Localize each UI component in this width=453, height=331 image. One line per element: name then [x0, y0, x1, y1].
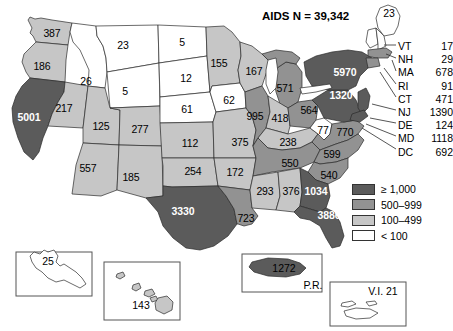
ne-list-value: 1390	[430, 106, 453, 119]
ne-list-value: 692	[435, 146, 453, 159]
inset-name-puerto-rico: P.R.	[303, 279, 322, 291]
ne-list-row-nj: NJ1390	[398, 106, 453, 119]
ne-list-row-md: MD1118	[398, 132, 453, 145]
legend-row-1[interactable]: ≥ 1,000	[352, 182, 422, 196]
ne-list-value: 17	[441, 40, 453, 53]
leader-line-md	[366, 124, 396, 136]
inset-name-virgin-islands: V.I. 21	[368, 285, 397, 297]
state-value-al: 376	[282, 185, 299, 197]
legend-swatch-4	[352, 230, 375, 241]
state-value-ga: 1034	[305, 185, 328, 197]
ne-list-abbr: NJ	[398, 106, 411, 119]
state-value-oh: 564	[300, 104, 317, 116]
map-figure: AIDS N = 39,342 387186500121726235125557…	[0, 0, 453, 331]
ne-list-value: 29	[441, 53, 453, 66]
legend-label-1: ≥ 1,000	[381, 183, 416, 195]
legend-swatch-3	[352, 215, 375, 226]
leader-line-ct	[380, 72, 396, 97]
state-value-in: 418	[271, 112, 288, 124]
leader-line-ma	[392, 60, 396, 71]
inset-value-alaska: 25	[42, 255, 54, 267]
state-value-pa: 1320	[330, 89, 353, 101]
ne-list-abbr: VT	[398, 40, 411, 53]
state-value-wa: 387	[43, 27, 60, 39]
ne-list-row-vt: VT17	[398, 40, 453, 53]
state-value-co: 277	[131, 123, 148, 135]
ne-list-value: 471	[435, 93, 453, 106]
ne-list-abbr: RI	[398, 80, 409, 93]
state-value-mo: 375	[231, 136, 248, 148]
ne-list-row-ri: RI91	[398, 80, 453, 93]
ne-list-abbr: NH	[398, 53, 413, 66]
ne-list-abbr: CT	[398, 93, 412, 106]
legend-swatch-1	[352, 184, 375, 195]
ne-list-value: 1118	[431, 132, 453, 145]
state-value-mn: 155	[210, 57, 227, 69]
leader-line-dc	[362, 128, 396, 149]
leader-line-de	[370, 118, 396, 123]
state-value-la: 723	[237, 212, 254, 224]
state-shape-CT[interactable]	[366, 58, 380, 68]
state-value-ne: 61	[181, 103, 192, 115]
state-value-tx: 3330	[172, 205, 195, 217]
ne-list-abbr: DE	[398, 119, 413, 132]
state-value-wv: 77	[317, 124, 328, 136]
state-value-id: 26	[80, 75, 91, 87]
inset-value-hawaii: 143	[132, 299, 150, 311]
state-value-il: 995	[246, 110, 263, 122]
state-value-or: 186	[33, 60, 50, 72]
ne-list-row-ma: MA678	[398, 66, 453, 79]
state-value-fl: 3886	[318, 209, 341, 221]
state-value-ia: 62	[223, 94, 234, 106]
ne-list-row-ct: CT471	[398, 93, 453, 106]
northeast-state-list: VT17NH29MA678RI91CT471NJ1390DE124MD1118D…	[398, 40, 453, 159]
ne-list-row-nh: NH29	[398, 53, 453, 66]
state-value-az: 557	[79, 162, 96, 174]
state-value-wy: 5	[122, 85, 128, 97]
legend-label-2: 500–999	[381, 199, 422, 211]
state-value-wi: 167	[245, 65, 262, 77]
legend-label-4: < 100	[381, 230, 408, 242]
state-value-tn: 550	[281, 157, 298, 169]
state-value-va: 770	[336, 126, 353, 138]
state-value-ny: 5970	[334, 66, 357, 78]
legend-swatch-2	[352, 199, 375, 210]
state-value-ut: 125	[92, 120, 109, 132]
inset-value-puerto-rico: 1272	[272, 262, 295, 274]
legend-label-3: 100–499	[381, 214, 422, 226]
state-value-nv: 217	[55, 102, 72, 114]
map-title: AIDS N = 39,342	[262, 10, 349, 22]
state-value-ar: 172	[226, 166, 243, 178]
ne-list-abbr: MD	[398, 132, 414, 145]
state-value-me: 23	[383, 7, 394, 19]
ne-list-row-dc: DC692	[398, 146, 453, 159]
state-shape-MA[interactable]	[368, 48, 392, 58]
legend-row-2[interactable]: 500–999	[352, 198, 422, 212]
ne-list-abbr: MA	[398, 66, 414, 79]
state-value-nd: 5	[179, 36, 185, 48]
legend-row-3[interactable]: 100–499	[352, 213, 422, 227]
ne-list-value: 124	[435, 119, 453, 132]
state-value-ca: 5001	[18, 111, 41, 123]
state-value-ms: 293	[256, 185, 273, 197]
state-value-nm: 185	[122, 171, 139, 183]
ne-list-value: 91	[441, 80, 453, 93]
ne-list-row-de: DE124	[398, 119, 453, 132]
state-value-nc: 599	[323, 148, 340, 160]
state-value-ks: 112	[182, 137, 198, 149]
state-value-ok: 254	[184, 165, 201, 177]
ne-list-abbr: DC	[398, 146, 413, 159]
state-value-mt: 23	[117, 39, 128, 51]
state-value-mi: 571	[276, 82, 293, 94]
state-value-ky: 238	[279, 136, 296, 148]
legend-row-4[interactable]: < 100	[352, 229, 422, 243]
ne-list-value: 678	[435, 66, 453, 79]
state-value-sc: 540	[320, 169, 337, 181]
leader-line-nj	[372, 104, 396, 110]
state-value-sd: 12	[180, 72, 191, 84]
map-legend: ≥ 1,000500–999100–499< 100	[352, 182, 422, 244]
